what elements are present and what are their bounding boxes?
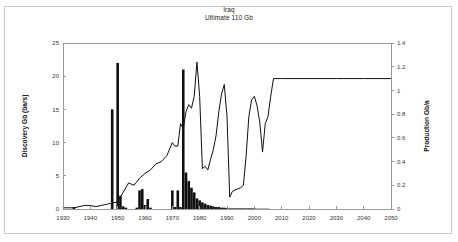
y-tick-label-left: 0 — [56, 206, 60, 212]
y-tick-label-right: 0.8 — [397, 111, 406, 117]
x-tick-label: 1970 — [166, 215, 180, 221]
discovery-bar — [141, 189, 144, 209]
discovery-bar — [185, 172, 188, 209]
y-tick-label-left: 10 — [52, 140, 59, 146]
y-tick-label-right: 1 — [397, 88, 401, 94]
x-tick-label: 2030 — [330, 215, 344, 221]
y-tick-label-right: 0.2 — [397, 182, 406, 188]
x-tick-label: 1960 — [138, 215, 152, 221]
x-tick-label: 2040 — [357, 215, 371, 221]
discovery-bar — [193, 192, 196, 209]
discovery-bar — [196, 198, 199, 209]
axis-labels: 1930194019501960197019801990200020102020… — [21, 40, 430, 221]
y-tick-label-right: 1.2 — [397, 64, 406, 70]
discovery-bar — [207, 205, 210, 209]
x-tick-label: 2020 — [302, 215, 316, 221]
x-tick-label: 1930 — [56, 215, 70, 221]
discovery-bar — [138, 190, 141, 209]
chart-figure: Iraq Ultimate 110 Gb 1930194019501960197… — [0, 0, 458, 242]
discovery-bars — [73, 63, 270, 209]
discovery-bar — [146, 199, 149, 209]
y-tick-label-left: 15 — [52, 107, 59, 113]
y-tick-label-left: 25 — [52, 40, 59, 46]
x-tick-label: 1950 — [111, 215, 125, 221]
discovery-bar — [182, 70, 185, 209]
discovery-bar — [187, 181, 190, 209]
plot-area: 1930194019501960197019801990200020102020… — [0, 0, 458, 242]
x-tick-label: 2010 — [275, 215, 289, 221]
y-tick-label-right: 0.4 — [397, 159, 406, 165]
discovery-bar — [190, 188, 193, 209]
discovery-bar — [201, 202, 204, 209]
x-tick-label: 1990 — [220, 215, 234, 221]
y-tick-label-left: 5 — [56, 173, 60, 179]
x-tick-label: 2050 — [384, 215, 398, 221]
y-tick-label-left: 20 — [52, 73, 59, 79]
x-tick-label: 2000 — [248, 215, 262, 221]
discovery-bar — [177, 190, 180, 209]
y-tick-label-right: 1.4 — [397, 40, 406, 46]
discovery-bar — [116, 63, 119, 209]
x-tick-label: 1980 — [193, 215, 207, 221]
x-tick-label: 1940 — [84, 215, 98, 221]
y-axis-title-left: Discovery Gb (bars) — [21, 95, 29, 158]
y-tick-label-right: 0.6 — [397, 135, 406, 141]
y-axis-title-right: Production Gb/a — [423, 100, 430, 152]
discovery-bar — [204, 204, 207, 209]
discovery-bar — [111, 109, 114, 209]
y-tick-label-right: 0 — [397, 206, 401, 212]
